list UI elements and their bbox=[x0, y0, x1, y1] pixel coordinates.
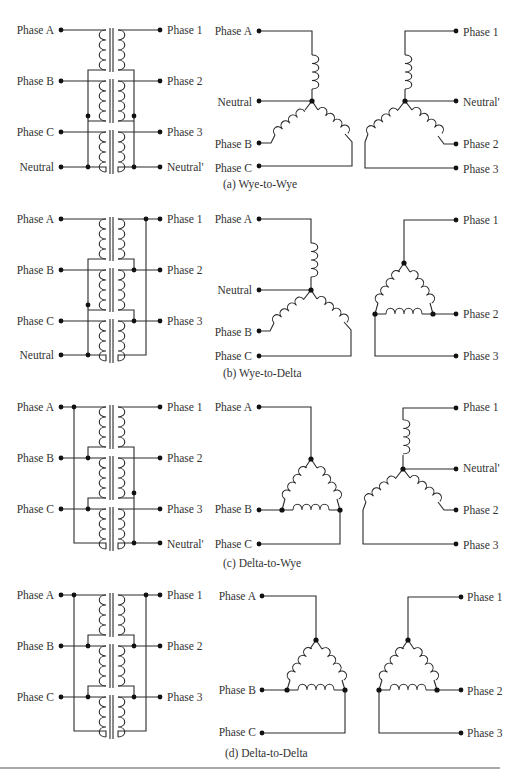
transformer-bank-b: Phase A Phase B Phase C Neutral Phase 1 … bbox=[17, 213, 203, 363]
label-phase-2: Phase 2 bbox=[463, 504, 499, 516]
label-phase-b: Phase B bbox=[215, 503, 253, 515]
label-phase-c: Phase C bbox=[215, 162, 253, 174]
label-phase-2: Phase 2 bbox=[167, 640, 203, 652]
panel-c: Phase A Phase B Phase C Phase 1 Phase 2 … bbox=[17, 401, 500, 570]
label-neutral-prime: Neutral' bbox=[167, 538, 204, 550]
schematic-c: Phase A Phase B Phase C Phase 1 Neutral'… bbox=[215, 401, 500, 570]
label-phase-2: Phase 2 bbox=[463, 308, 499, 320]
label-phase-b: Phase B bbox=[215, 326, 253, 338]
label-phase-b: Phase B bbox=[215, 138, 253, 150]
label-phase-b: Phase B bbox=[17, 75, 55, 87]
label-phase-1: Phase 1 bbox=[463, 214, 499, 226]
label-phase-3: Phase 3 bbox=[167, 315, 203, 327]
label-phase-3: Phase 3 bbox=[463, 539, 499, 551]
label-phase-c: Phase C bbox=[17, 503, 55, 515]
label-phase-1: Phase 1 bbox=[463, 401, 499, 413]
caption-c: (c) Delta-to-Wye bbox=[223, 557, 301, 570]
label-phase-3: Phase 3 bbox=[463, 350, 499, 362]
transformer-bank-a: Phase A Phase B Phase C Neutral Phase 1 … bbox=[17, 24, 204, 174]
label-phase-c: Phase C bbox=[219, 726, 257, 738]
label-phase-1: Phase 1 bbox=[167, 589, 203, 601]
label-phase-b: Phase B bbox=[219, 684, 257, 696]
label-neutral-prime: Neutral' bbox=[463, 96, 500, 108]
label-phase-b: Phase B bbox=[17, 640, 55, 652]
label-neutral-prime: Neutral' bbox=[167, 161, 204, 173]
label-phase-c: Phase C bbox=[17, 315, 55, 327]
label-neutral: Neutral bbox=[218, 96, 252, 108]
label-phase-3: Phase 3 bbox=[167, 503, 203, 515]
caption-a: (a) Wye-to-Wye bbox=[223, 178, 297, 191]
label-phase-3: Phase 3 bbox=[167, 691, 203, 703]
caption-b: (b) Wye-to-Delta bbox=[223, 367, 302, 380]
label-phase-1: Phase 1 bbox=[467, 591, 503, 603]
label-phase-b: Phase B bbox=[17, 452, 55, 464]
schematic-b: Phase A Neutral Phase B Phase C Phase 1 … bbox=[215, 213, 499, 380]
label-phase-c: Phase C bbox=[215, 350, 253, 362]
label-phase-a: Phase A bbox=[215, 25, 253, 37]
label-phase-c: Phase C bbox=[17, 691, 55, 703]
label-phase-b: Phase B bbox=[17, 264, 55, 276]
label-neutral-prime: Neutral' bbox=[463, 462, 500, 474]
caption-d: (d) Delta-to-Delta bbox=[225, 747, 308, 760]
label-phase-a: Phase A bbox=[17, 401, 55, 413]
label-neutral: Neutral bbox=[20, 161, 54, 173]
panel-b: Phase A Phase B Phase C Neutral Phase 1 … bbox=[17, 213, 499, 380]
label-neutral: Neutral bbox=[20, 349, 54, 361]
label-phase-2: Phase 2 bbox=[467, 685, 503, 697]
panel-a: Phase A Phase B Phase C Neutral Phase 1 … bbox=[17, 24, 500, 191]
label-phase-a: Phase A bbox=[17, 213, 55, 225]
transformer-bank-d: Phase A Phase B Phase C Phase 1 Phase 2 … bbox=[17, 589, 203, 739]
label-phase-1: Phase 1 bbox=[167, 24, 203, 36]
label-phase-2: Phase 2 bbox=[167, 75, 203, 87]
schematic-d: Phase A Phase B Phase C Phase 1 Phase 2 … bbox=[219, 590, 503, 760]
label-phase-c: Phase C bbox=[215, 538, 253, 550]
transformer-bank-c: Phase A Phase B Phase C Phase 1 Phase 2 … bbox=[17, 401, 204, 551]
label-phase-2: Phase 2 bbox=[167, 264, 203, 276]
label-phase-1: Phase 1 bbox=[167, 401, 203, 413]
label-phase-3: Phase 3 bbox=[463, 163, 499, 175]
label-phase-2: Phase 2 bbox=[167, 452, 203, 464]
label-phase-1: Phase 1 bbox=[167, 213, 203, 225]
label-phase-3: Phase 3 bbox=[467, 727, 503, 739]
panel-d: Phase A Phase B Phase C Phase 1 Phase 2 … bbox=[17, 589, 503, 760]
label-phase-1: Phase 1 bbox=[463, 26, 499, 38]
transformer-connections-figure: Phase A Phase B Phase C Neutral Phase 1 … bbox=[0, 0, 514, 777]
label-phase-a: Phase A bbox=[17, 589, 55, 601]
label-phase-c: Phase C bbox=[17, 126, 55, 138]
label-neutral: Neutral bbox=[218, 284, 252, 296]
label-phase-2: Phase 2 bbox=[463, 138, 499, 150]
label-phase-a: Phase A bbox=[17, 24, 55, 36]
label-phase-a: Phase A bbox=[215, 213, 253, 225]
label-phase-a: Phase A bbox=[215, 401, 253, 413]
label-phase-a: Phase A bbox=[219, 590, 257, 602]
schematic-a: Phase A Neutral Phase B Phase C Phase 1 … bbox=[215, 25, 500, 191]
label-phase-3: Phase 3 bbox=[167, 126, 203, 138]
